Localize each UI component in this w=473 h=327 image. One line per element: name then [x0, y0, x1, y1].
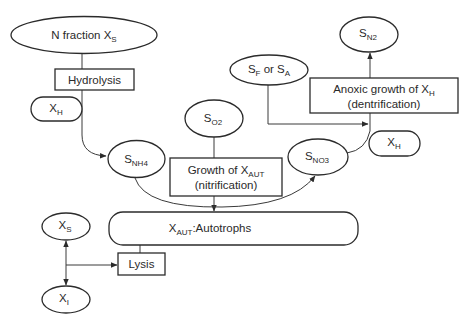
edge-hydrolysis-snh4	[82, 90, 106, 156]
node-sno3: SNO3	[288, 139, 348, 175]
n-fraction-label: N fraction X	[51, 29, 111, 41]
node-n-fraction: N fraction XS	[11, 17, 157, 54]
node-so2: SO2	[185, 100, 243, 137]
node-xh-left: XH	[31, 97, 82, 121]
node-autotrophs: XAUT:Autotrophs	[109, 212, 358, 245]
lysis-label: Lysis	[129, 258, 155, 270]
hydrolysis-label: Hydrolysis	[68, 74, 121, 86]
node-xs: XS	[42, 213, 90, 240]
node-snh4: SNH4	[108, 141, 165, 178]
node-lysis: Lysis	[118, 253, 165, 275]
node-xi: XI	[42, 286, 90, 313]
node-xh-right: XH	[369, 131, 420, 156]
svg-text:(nitrification): (nitrification)	[195, 179, 258, 191]
node-growth-aut: Growth of XAUT (nitrification)	[170, 158, 282, 196]
edge-sno3-xh	[347, 131, 370, 153]
node-sn2: SN2	[340, 17, 398, 52]
node-hydrolysis: Hydrolysis	[55, 69, 134, 90]
cropped-caption	[0, 318, 473, 327]
svg-text:(dentrification): (dentrification)	[348, 98, 421, 110]
node-sf-or-sa: SF or SA	[230, 55, 308, 85]
nitrogen-flow-diagram: N fraction XS Hydrolysis XH SNH4 SO2 Gro…	[0, 0, 473, 327]
node-anoxic-growth: Anoxic growth of XH (dentrification)	[310, 78, 458, 113]
